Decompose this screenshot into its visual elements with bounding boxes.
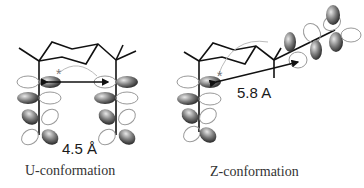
conformation-diagram	[0, 0, 364, 188]
transfer-arc	[60, 66, 97, 76]
distance-arrow-z	[216, 68, 274, 82]
distance-label-u: 4.5 Å	[62, 140, 97, 157]
excited-marker-u: *	[56, 66, 61, 82]
z-conformation-structure	[177, 5, 361, 146]
diagonal-chain	[274, 30, 335, 60]
caption-z-conformation: Z-conformation	[210, 164, 299, 180]
caption-u-conformation: U-conformation	[25, 163, 115, 179]
distance-label-z: 5.8 A	[237, 84, 271, 101]
excited-marker-z: *	[217, 68, 222, 84]
ring-top-bonds	[39, 42, 116, 61]
u-conformation-structure	[17, 42, 138, 148]
